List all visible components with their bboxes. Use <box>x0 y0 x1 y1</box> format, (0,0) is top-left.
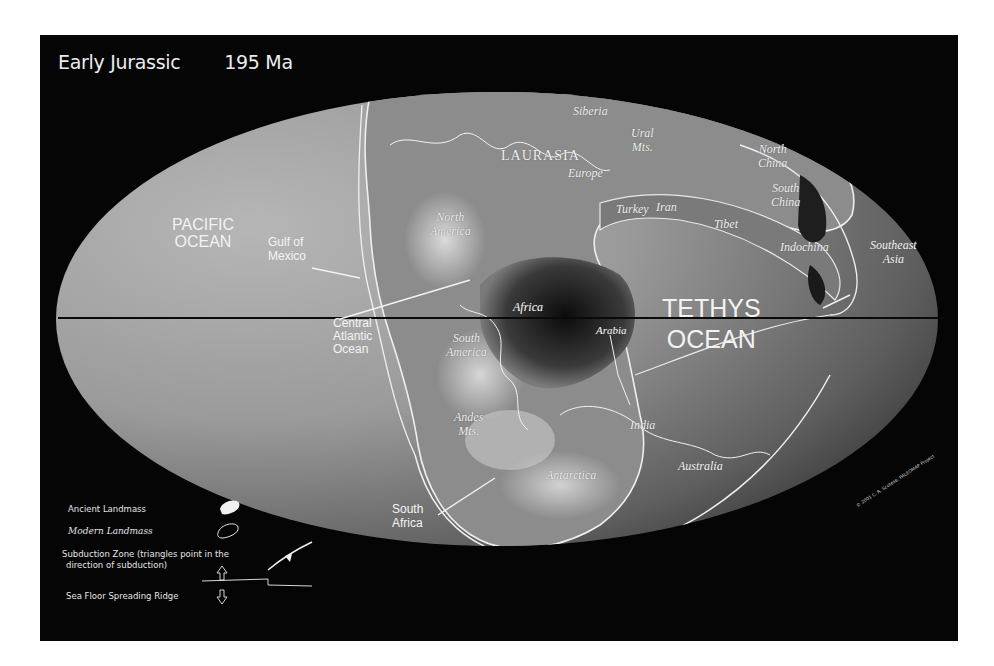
ural-mts-label: Ural Mts. <box>631 127 654 155</box>
map-title: Early Jurassic 195 Ma <box>58 51 293 73</box>
south-africa-label: South Africa <box>392 502 423 531</box>
gulf-of-mexico-label: Gulf of Mexico <box>268 235 306 264</box>
laurasia-label: LAURASIA <box>501 148 580 164</box>
age-label: 195 Ma <box>224 51 293 73</box>
ridge-arrow-icon <box>217 590 227 604</box>
south-america-label: South America <box>446 332 487 360</box>
central-atlantic-label: Central Atlantic Ocean <box>333 317 372 357</box>
north-china-label: North China <box>758 143 787 171</box>
southeast-asia-label: Southeast Asia <box>870 239 917 267</box>
andes-mts-label: Andes Mts. <box>454 411 483 439</box>
arabia-label: Arabia <box>596 324 627 337</box>
north-america-label: North America <box>430 211 471 239</box>
legend-spreading-ridge: Sea Floor Spreading Ridge <box>66 591 178 602</box>
legend-subduction-zone: Subduction Zone (triangles point in the … <box>62 549 229 570</box>
legend-ancient-landmass: Ancient Landmass <box>68 504 146 515</box>
tethys-ocean-label: TETHYS OCEAN <box>662 293 761 356</box>
siberia-label: Siberia <box>573 105 608 119</box>
india-label: India <box>630 419 655 433</box>
turkey-label: Turkey <box>616 203 649 217</box>
paleogeographic-map-panel: Early Jurassic 195 Ma PACIFIC OCEAN TETH… <box>40 35 958 641</box>
indochina-label: Indochina <box>780 241 829 255</box>
modern-landmass-swatch <box>218 524 239 538</box>
australia-label: Australia <box>678 460 723 474</box>
ancient-landmass-swatch <box>220 501 239 515</box>
ridge-symbol <box>202 579 312 586</box>
era-label: Early Jurassic <box>58 51 180 73</box>
africa-label: Africa <box>513 301 543 315</box>
south-china-label: South China <box>771 182 800 210</box>
pacific-ocean-label: PACIFIC OCEAN <box>172 217 234 251</box>
tibet-label: Tibet <box>714 218 738 232</box>
europe-label: Europe <box>568 167 603 181</box>
iran-label: Iran <box>656 201 677 215</box>
antarctica-label: Antarctica <box>546 469 596 483</box>
legend-modern-landmass: Modern Landmass <box>68 526 153 536</box>
